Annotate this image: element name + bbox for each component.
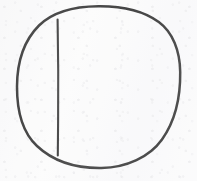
drawing-canvas: [0, 0, 197, 181]
vertical-chord-line: [58, 20, 59, 156]
sketch-drawing: [0, 0, 197, 181]
circle-outline-icon: [17, 6, 180, 168]
